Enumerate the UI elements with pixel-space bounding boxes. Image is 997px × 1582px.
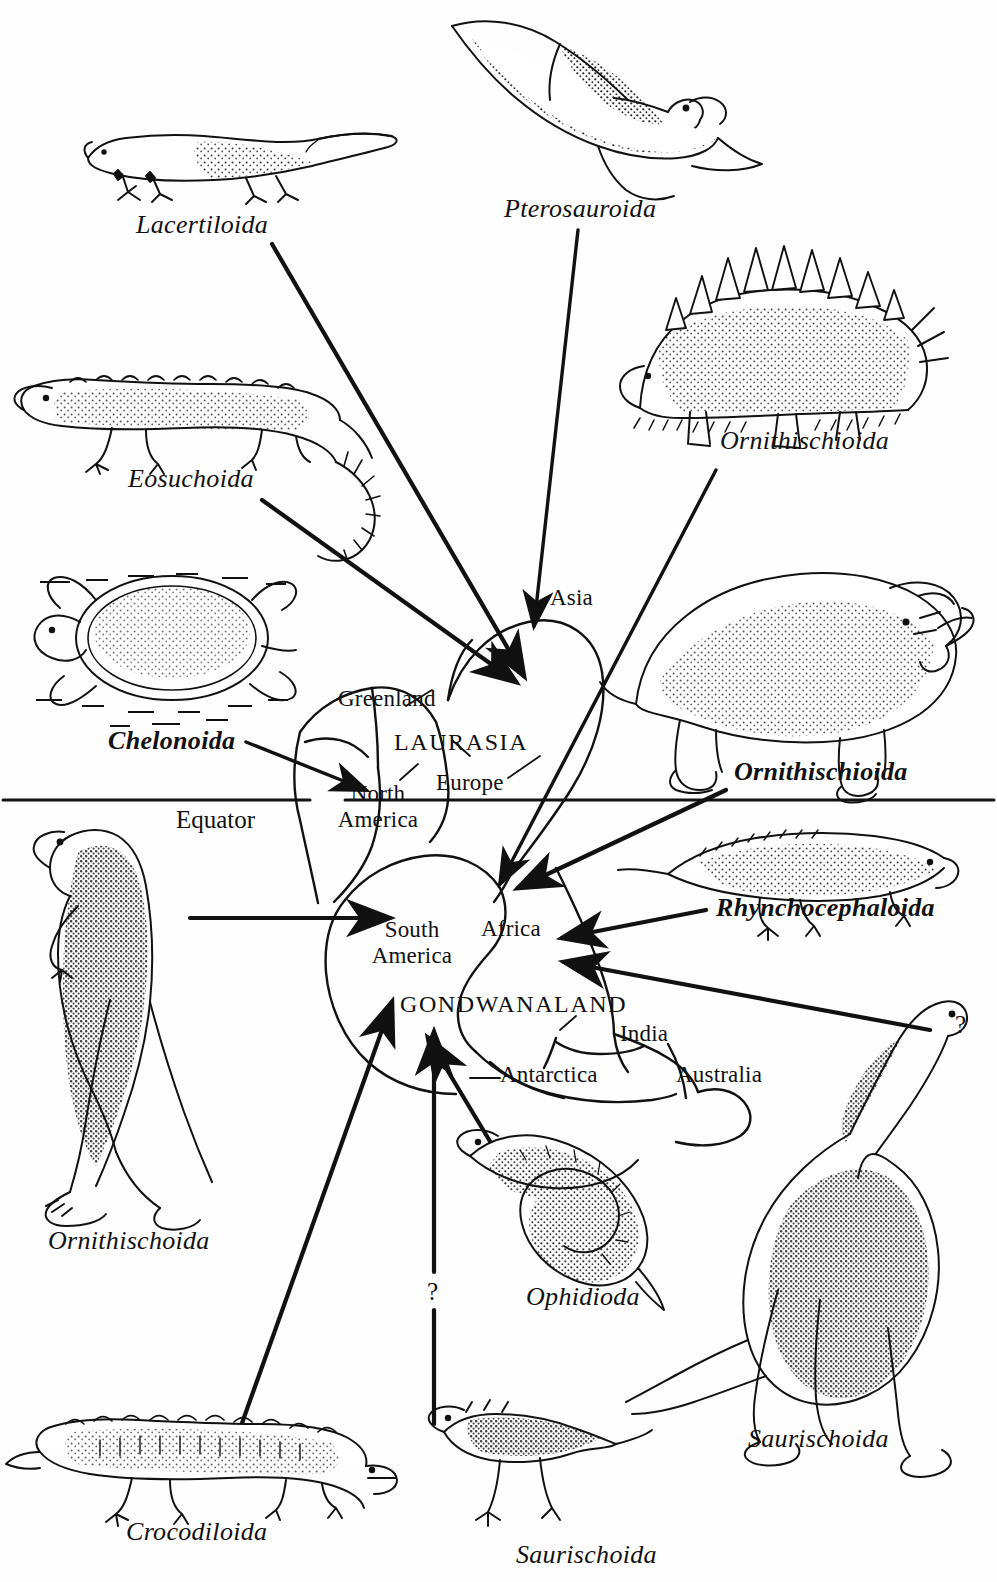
landmass-label-asia: Asia: [550, 586, 593, 609]
landmass-label-greenland: Greenland: [338, 687, 436, 710]
illustration-chelonoida: [34, 574, 296, 726]
landmass-label-australia: Australia: [676, 1063, 762, 1086]
taxon-label-ophidioda: Ophidioda: [526, 1284, 640, 1310]
north-america-line-1: North: [332, 782, 424, 805]
illustration-lacertiloida: [85, 134, 397, 204]
arrow-lacertiloida: [272, 244, 524, 676]
landmass-label-north-america: North America: [332, 782, 424, 831]
south-america-line-1: South: [360, 918, 464, 941]
figure-canvas: Lacertiloida Pterosauroida Ornithischioi…: [0, 0, 997, 1582]
supercontinent-label-laurasia: LAURASIA: [394, 730, 528, 754]
taxon-label-pterosauroida: Pterosauroida: [504, 196, 656, 222]
supercontinent-label-gondwanaland: GONDWANALAND: [400, 992, 627, 1016]
illustration-ornithischioida-top: [620, 246, 948, 448]
illustration-crocodiloida: [6, 1416, 397, 1527]
landmass-label-india: India: [620, 1022, 668, 1045]
arrow-pterosauroida: [534, 230, 578, 626]
laurasia-outline: [294, 620, 603, 903]
equator-label: Equator: [176, 807, 255, 832]
north-america-line-2: America: [332, 808, 424, 831]
landmass-label-africa: Africa: [481, 917, 541, 940]
taxon-label-eosuchoida: Eosuchoida: [128, 466, 254, 492]
illustration-rhynchocephaloida: [618, 830, 958, 940]
taxon-label-rhynchocephaloida: Rhynchocephaloida: [716, 895, 935, 921]
landmass-label-south-america: South America: [360, 918, 464, 967]
taxon-label-chelonoida: Chelonoida: [108, 728, 235, 754]
landmass-label-antarctica: Antarctica: [500, 1063, 598, 1086]
illustration-saurischoida-bottom: [429, 1400, 652, 1526]
taxon-label-ornithischioida-mid: Ornithischioida: [734, 759, 908, 785]
illustration-ornithischoida-left: [34, 830, 212, 1230]
taxon-label-crocodiloida: Crocodiloida: [126, 1519, 267, 1545]
illustration-pterosauroida: [452, 21, 762, 199]
arrow-ophidioda: [428, 1038, 500, 1158]
arrow-crocodiloida: [236, 1002, 392, 1440]
uncertainty-mark-right: ?: [955, 1012, 966, 1037]
landmass-label-europe: Europe: [436, 771, 504, 794]
uncertainty-mark-bottom: ?: [427, 1279, 438, 1304]
taxon-label-ornithischioida-top: Ornithischioida: [720, 428, 889, 454]
arrow-ornithischioida-mid: [518, 790, 726, 888]
south-america-line-2: America: [360, 944, 464, 967]
taxon-label-ornithischoida-left: Ornithischoida: [48, 1228, 210, 1254]
taxon-label-saurischoida-right: Saurischoida: [748, 1426, 889, 1452]
taxon-label-lacertiloida: Lacertiloida: [136, 212, 268, 238]
taxon-label-saurischoida-bottom: Saurischoida: [516, 1542, 657, 1568]
arrow-eosuchoida: [262, 500, 516, 682]
